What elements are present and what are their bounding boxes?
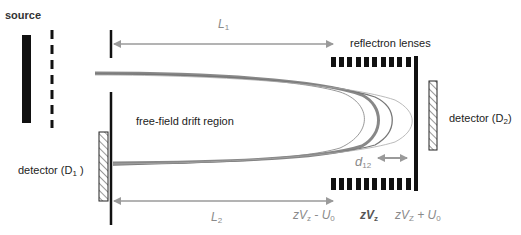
- l1-label: L1: [218, 17, 229, 32]
- detector-d2-text: detector (D: [449, 112, 503, 124]
- l1-main: L: [218, 17, 225, 31]
- reflectron-lenses-bottom: [331, 178, 411, 190]
- l2-main: L: [211, 210, 218, 224]
- detector-d1: [99, 132, 108, 201]
- potential-low-post: - U: [311, 208, 330, 222]
- potential-low-label: zVz - U0: [293, 208, 335, 223]
- potential-high-pre: zV: [395, 208, 409, 222]
- potential-mid-pre: zV: [360, 208, 374, 222]
- l1-sub: 1: [225, 23, 229, 32]
- source-label: source: [5, 9, 41, 21]
- potential-high-post-sub: 0: [436, 214, 440, 223]
- l2-label: L2: [211, 210, 222, 225]
- d12-sub: 12: [362, 161, 371, 170]
- source-plate: [22, 35, 31, 123]
- potential-high-post: + U: [414, 208, 436, 222]
- detector-d2-label: detector (D2): [449, 112, 512, 126]
- potential-low-pre: zV: [293, 208, 307, 222]
- detector-d1-label: detector (D1 ): [18, 164, 84, 178]
- potential-high-label: zVZ + U0: [395, 208, 441, 223]
- detector-d2: [429, 81, 437, 150]
- potential-low-post-sub: 0: [330, 214, 334, 223]
- l2-sub: 2: [218, 216, 222, 225]
- detector-d1-text: detector (D: [18, 164, 72, 176]
- reflectron-lenses-top: [331, 57, 411, 67]
- detector-d2-close: ): [508, 112, 512, 124]
- diagram-canvas: [0, 0, 521, 235]
- detector-d1-close: ): [77, 164, 84, 176]
- free-field-drift-label: free-field drift region: [136, 115, 234, 127]
- reflectron-lenses-label: reflectron lenses: [350, 37, 431, 49]
- d12-label: d12: [355, 154, 371, 170]
- potential-mid-sub: z: [374, 214, 378, 223]
- potential-mid-label: zVz: [360, 208, 378, 223]
